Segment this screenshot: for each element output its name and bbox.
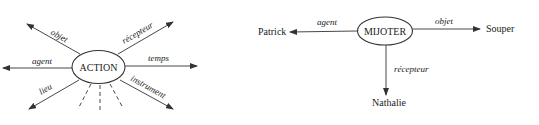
agent-label-left: agent (32, 56, 52, 66)
agent-arrow-right (290, 31, 357, 32)
patrick-node: Patrick (258, 26, 286, 37)
lieu-arrow (29, 80, 79, 109)
action-node-label: ACTION (80, 62, 118, 73)
action-diagram: objet agent récepteur temps lieu instrum… (3, 20, 197, 110)
mijoter-node-label: MIJOTER (364, 26, 407, 37)
open-relation-dashed-line (110, 84, 123, 108)
temps-label: temps (148, 53, 169, 63)
case-grammar-diagrams: objet agent récepteur temps lieu instrum… (0, 0, 539, 125)
souper-node: Souper (486, 23, 515, 34)
lieu-label: lieu (37, 81, 54, 97)
mijoter-diagram: agent Patrick objet Souper récepteur Nat… (258, 16, 515, 108)
open-relation-dashed-line (78, 84, 91, 109)
objet-label-right: objet (435, 16, 453, 26)
nathalie-node: Nathalie (372, 97, 406, 108)
recepteur-label-left: récepteur (120, 20, 155, 46)
instrument-label: instrument (129, 73, 168, 101)
recepteur-label-right: récepteur (394, 64, 429, 74)
agent-label-right: agent (317, 17, 337, 27)
